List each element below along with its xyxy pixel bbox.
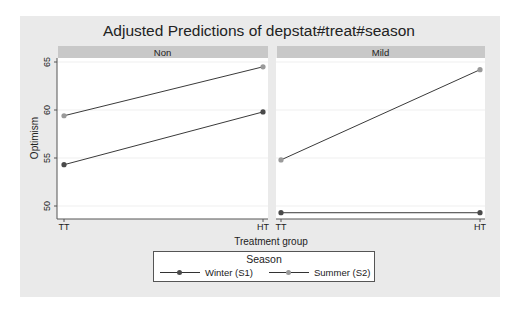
panel-title: Non [154,47,171,58]
y-tick-label: 50 [42,201,52,211]
y-tick-label: 55 [42,153,52,163]
data-point [278,157,283,162]
legend-label-summer: Summer (S2) [314,267,370,278]
legend: Season Winter (S1) Summer (S2) [153,251,375,282]
data-point [477,67,482,72]
data-point [61,162,66,167]
legend-label-winter: Winter (S1) [205,267,253,278]
x-tick-label: HT [474,222,486,232]
summer-line-marker-icon [269,272,309,273]
data-point [278,210,283,215]
panel-title: Mild [372,47,389,58]
legend-item-summer: Summer (S2) [269,267,370,278]
legend-item-winter: Winter (S1) [160,267,253,278]
legend-title: Season [154,253,374,265]
winter-line-marker-icon [160,272,200,273]
x-tick-label: HT [257,222,269,232]
x-tick-label: TT [276,222,287,232]
y-tick-label: 60 [42,105,52,115]
data-point [260,109,265,114]
data-point [61,113,66,118]
y-axis-label: Optimism [29,117,40,159]
x-tick-label: TT [59,222,70,232]
data-point [477,210,482,215]
data-point [260,64,265,69]
x-axis-label: Treatment group [234,236,308,247]
y-tick-label: 65 [42,57,52,67]
